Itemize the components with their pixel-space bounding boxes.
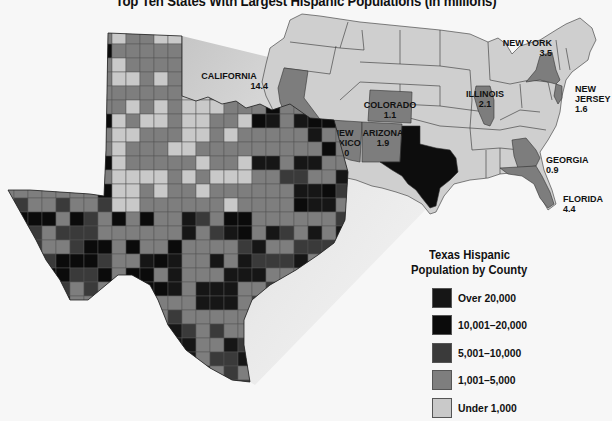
county-cell [84, 268, 98, 282]
county-cell [98, 268, 112, 282]
county-cell [252, 240, 266, 254]
county-cell [224, 324, 238, 338]
county-cell [70, 184, 84, 198]
county-cell [126, 156, 140, 170]
county-cell [168, 58, 182, 72]
county-cell [42, 338, 56, 352]
county-cell [294, 226, 308, 240]
county-cell [140, 128, 154, 142]
county-cell [140, 198, 154, 212]
county-cell [252, 142, 266, 156]
county-cell [70, 352, 84, 366]
county-cell [224, 380, 238, 394]
legend-title-line1: Texas Hispanic [429, 248, 548, 263]
county-cell [70, 86, 84, 100]
county-cell [294, 128, 308, 142]
legend-items: Over 20,000 10,001–20,000 5,001–10,000 1… [432, 284, 561, 421]
county-cell [182, 240, 196, 254]
county-cell [308, 380, 322, 394]
county-cell [308, 128, 322, 142]
county-cell [140, 156, 154, 170]
county-cell [56, 338, 70, 352]
county-cell [0, 128, 14, 142]
county-cell [56, 100, 70, 114]
county-cell [196, 240, 210, 254]
county-cell [168, 366, 182, 380]
label-illinois: ILLINOIS [466, 89, 504, 99]
county-cell [126, 184, 140, 198]
county-cell [0, 170, 14, 184]
county-cell [14, 44, 28, 58]
county-cell [168, 338, 182, 352]
county-cell [70, 128, 84, 142]
county-cell [182, 338, 196, 352]
county-cell [182, 184, 196, 198]
county-cell [70, 268, 84, 282]
county-cell [56, 128, 70, 142]
county-cell [126, 226, 140, 240]
county-cell [308, 198, 322, 212]
county-cell [322, 352, 336, 366]
county-cell [238, 198, 252, 212]
county-cell [154, 114, 168, 128]
county-cell [350, 324, 364, 338]
county-cell [280, 380, 294, 394]
county-cell [56, 268, 70, 282]
county-cell [14, 380, 28, 394]
county-cell [154, 226, 168, 240]
county-cell [238, 268, 252, 282]
county-cell [210, 380, 224, 394]
county-cell [42, 240, 56, 254]
county-cell [154, 30, 168, 44]
county-cell [56, 282, 70, 296]
county-cell [70, 170, 84, 184]
county-cell [140, 324, 154, 338]
county-cell [126, 86, 140, 100]
county-cell [294, 170, 308, 184]
county-cell [70, 310, 84, 324]
county-cell [266, 156, 280, 170]
county-cell [84, 128, 98, 142]
county-cell [42, 198, 56, 212]
county-cell [238, 156, 252, 170]
value-arizona: 1.9 [377, 138, 390, 148]
county-cell [210, 30, 224, 44]
county-cell [322, 338, 336, 352]
county-cell [238, 212, 252, 226]
county-cell [154, 352, 168, 366]
county-cell [308, 142, 322, 156]
county-cell [84, 338, 98, 352]
county-cell [140, 58, 154, 72]
county-cell [252, 226, 266, 240]
county-cell [14, 114, 28, 128]
county-cell [112, 282, 126, 296]
county-cell [252, 128, 266, 142]
county-cell [28, 198, 42, 212]
county-cell [14, 184, 28, 198]
county-cell [140, 100, 154, 114]
county-cell [196, 100, 210, 114]
county-cell [182, 170, 196, 184]
county-cell [28, 324, 42, 338]
county-cell [140, 30, 154, 44]
county-cell [294, 198, 308, 212]
county-cell [98, 128, 112, 142]
county-cell [126, 44, 140, 58]
value-colorado: 1.1 [384, 110, 397, 120]
county-cell [140, 226, 154, 240]
county-cell [266, 380, 280, 394]
county-cell [56, 212, 70, 226]
county-cell [168, 156, 182, 170]
county-cell [98, 254, 112, 268]
county-cell [322, 184, 336, 198]
county-cell [238, 282, 252, 296]
county-cell [182, 282, 196, 296]
county-cell [210, 226, 224, 240]
value-new-york: 3.5 [539, 48, 552, 58]
legend-item-under-1000: Under 1,000 [432, 394, 561, 421]
county-cell [308, 226, 322, 240]
county-cell [280, 156, 294, 170]
county-cell [154, 324, 168, 338]
county-cell [294, 142, 308, 156]
county-cell [350, 296, 364, 310]
